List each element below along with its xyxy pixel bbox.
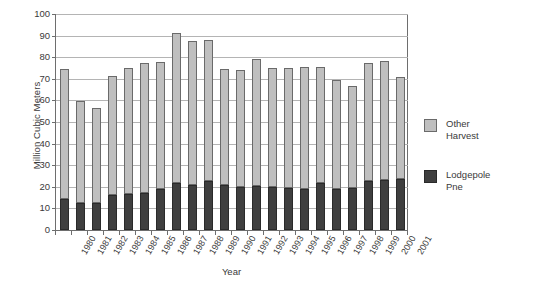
- y-axis-tick-labels: 0102030405060708090100: [22, 14, 50, 230]
- bar-segment-other-harvest[interactable]: [60, 69, 69, 199]
- y-axis-tick-mark: [52, 208, 56, 209]
- bar-segment-lodgepole-pine[interactable]: [268, 187, 277, 230]
- bar-segment-lodgepole-pine[interactable]: [156, 189, 165, 230]
- bar-segment-lodgepole-pine[interactable]: [188, 185, 197, 230]
- bar-group[interactable]: [188, 14, 197, 230]
- bar-segment-lodgepole-pine[interactable]: [60, 199, 69, 230]
- x-axis-tick-label: 1990: [239, 234, 258, 256]
- bar-group[interactable]: [124, 14, 133, 230]
- bar-segment-lodgepole-pine[interactable]: [92, 203, 101, 230]
- bar-segment-other-harvest[interactable]: [332, 80, 341, 189]
- x-axis-tick-label: 1991: [255, 234, 274, 256]
- legend-label-line1: Lodgepole: [446, 169, 490, 181]
- bar-segment-lodgepole-pine[interactable]: [332, 189, 341, 230]
- legend-label-lodgepole-pine: Lodgepole Pne: [446, 169, 490, 192]
- bar-group[interactable]: [220, 14, 229, 230]
- bar-segment-other-harvest[interactable]: [268, 68, 277, 187]
- bar-group[interactable]: [364, 14, 373, 230]
- bar-segment-lodgepole-pine[interactable]: [76, 203, 85, 230]
- bar-group[interactable]: [140, 14, 149, 230]
- x-axis-tick-label: 1993: [287, 234, 306, 256]
- y-axis-tick-label: 50: [22, 117, 50, 127]
- bar-segment-other-harvest[interactable]: [188, 41, 197, 185]
- legend-swatch-other-harvest: [424, 119, 437, 132]
- bar-group[interactable]: [236, 14, 245, 230]
- legend-label-other-harvest: Other Harvest: [446, 118, 479, 141]
- y-axis-tick-label: 100: [22, 9, 50, 19]
- bar-group[interactable]: [76, 14, 85, 230]
- x-axis-tick-label: 1986: [175, 234, 194, 256]
- bar-segment-other-harvest[interactable]: [76, 101, 85, 203]
- y-axis-tick-mark: [52, 14, 56, 15]
- bar-segment-other-harvest[interactable]: [364, 63, 373, 180]
- y-axis-tick-mark: [52, 57, 56, 58]
- bar-group[interactable]: [396, 14, 405, 230]
- bar-segment-other-harvest[interactable]: [108, 76, 117, 196]
- bar-segment-other-harvest[interactable]: [396, 77, 405, 179]
- x-axis-tick-label: 1988: [207, 234, 226, 256]
- bar-segment-lodgepole-pine[interactable]: [300, 189, 309, 230]
- bar-segment-lodgepole-pine[interactable]: [204, 181, 213, 230]
- bar-segment-lodgepole-pine[interactable]: [236, 187, 245, 230]
- bar-group[interactable]: [332, 14, 341, 230]
- bar-group[interactable]: [380, 14, 389, 230]
- bar-segment-other-harvest[interactable]: [140, 63, 149, 193]
- bar-segment-other-harvest[interactable]: [172, 33, 181, 183]
- y-axis-tick-mark: [52, 122, 56, 123]
- legend-item-other-harvest[interactable]: Other Harvest: [424, 118, 548, 141]
- x-axis-tick-label: 1998: [367, 234, 386, 256]
- bar-group[interactable]: [252, 14, 261, 230]
- bar-segment-other-harvest[interactable]: [156, 62, 165, 189]
- bar-segment-other-harvest[interactable]: [300, 67, 309, 189]
- bar-group[interactable]: [300, 14, 309, 230]
- bar-segment-other-harvest[interactable]: [284, 68, 293, 189]
- bar-segment-other-harvest[interactable]: [204, 40, 213, 182]
- bar-segment-lodgepole-pine[interactable]: [108, 195, 117, 230]
- chart-legend: Other Harvest Lodgepole Pne: [424, 118, 548, 220]
- bar-segment-lodgepole-pine[interactable]: [364, 181, 373, 230]
- bar-segment-lodgepole-pine[interactable]: [140, 193, 149, 230]
- bar-chart: Million Cubic Meters 0102030405060708090…: [0, 0, 553, 289]
- bar-segment-lodgepole-pine[interactable]: [284, 188, 293, 230]
- bar-segment-other-harvest[interactable]: [380, 61, 389, 180]
- bar-group[interactable]: [92, 14, 101, 230]
- bar-group[interactable]: [204, 14, 213, 230]
- legend-label-line1: Other: [446, 118, 479, 130]
- bar-segment-other-harvest[interactable]: [220, 69, 229, 185]
- bar-segment-lodgepole-pine[interactable]: [124, 194, 133, 230]
- bar-group[interactable]: [156, 14, 165, 230]
- bar-segment-other-harvest[interactable]: [316, 67, 325, 183]
- bar-group[interactable]: [284, 14, 293, 230]
- x-axis-tick-label: 1996: [335, 234, 354, 256]
- bar-segment-other-harvest[interactable]: [252, 59, 261, 186]
- bar-group[interactable]: [172, 14, 181, 230]
- legend-swatch-lodgepole-pine: [424, 170, 437, 183]
- x-axis-tick-label: 1992: [271, 234, 290, 256]
- x-axis-tick-label: 1982: [111, 234, 130, 256]
- y-axis-tick-mark: [52, 144, 56, 145]
- x-axis-tick-label: 1997: [351, 234, 370, 256]
- bar-segment-lodgepole-pine[interactable]: [316, 183, 325, 230]
- y-axis-tick-mark: [52, 100, 56, 101]
- bar-group[interactable]: [348, 14, 357, 230]
- bar-group[interactable]: [316, 14, 325, 230]
- bar-segment-lodgepole-pine[interactable]: [172, 183, 181, 230]
- bar-segment-other-harvest[interactable]: [124, 68, 133, 194]
- bar-group[interactable]: [60, 14, 69, 230]
- bar-segment-other-harvest[interactable]: [348, 86, 357, 188]
- bar-segment-other-harvest[interactable]: [92, 108, 101, 203]
- bars-container: [56, 14, 408, 230]
- bar-group[interactable]: [268, 14, 277, 230]
- bar-segment-lodgepole-pine[interactable]: [348, 188, 357, 230]
- legend-item-lodgepole-pine[interactable]: Lodgepole Pne: [424, 169, 548, 192]
- bar-segment-lodgepole-pine[interactable]: [220, 185, 229, 230]
- x-axis-tick-label: 1984: [143, 234, 162, 256]
- bar-segment-lodgepole-pine[interactable]: [396, 179, 405, 230]
- y-axis-tick-mark: [52, 79, 56, 80]
- bar-group[interactable]: [108, 14, 117, 230]
- bar-segment-lodgepole-pine[interactable]: [252, 186, 261, 230]
- y-axis-tick-label: 20: [22, 182, 50, 192]
- y-axis-tick-mark: [52, 36, 56, 37]
- bar-segment-lodgepole-pine[interactable]: [380, 180, 389, 230]
- bar-segment-other-harvest[interactable]: [236, 70, 245, 188]
